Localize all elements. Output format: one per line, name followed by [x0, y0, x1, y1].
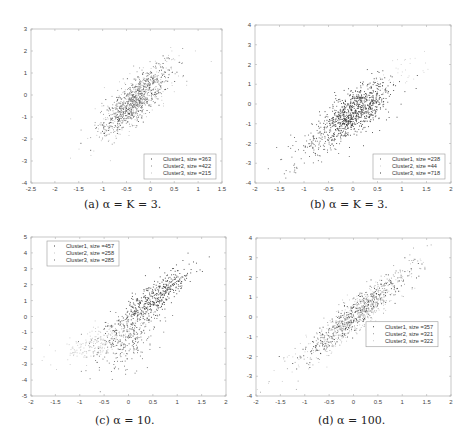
data-point: [394, 287, 395, 288]
data-point: [154, 295, 155, 296]
data-point: [164, 81, 165, 82]
data-point: [373, 119, 374, 120]
data-point: [343, 336, 344, 337]
data-point: [102, 138, 103, 139]
legend-marker: [373, 340, 374, 341]
data-point: [108, 119, 109, 120]
data-point: [344, 318, 345, 319]
data-point: [92, 331, 93, 332]
data-point: [138, 100, 139, 101]
x-tick-label: 1.5: [422, 186, 431, 192]
data-point: [342, 331, 343, 332]
data-point: [117, 320, 118, 321]
data-point: [326, 120, 327, 121]
data-point: [133, 336, 134, 337]
data-point: [329, 142, 330, 143]
data-point: [164, 304, 165, 305]
data-point: [334, 138, 335, 139]
data-point: [153, 81, 154, 82]
data-point: [362, 114, 363, 115]
data-point: [404, 284, 405, 285]
data-point: [373, 301, 374, 302]
data-point: [324, 346, 325, 347]
data-point: [112, 349, 113, 350]
data-point: [130, 304, 131, 305]
data-point: [107, 337, 108, 338]
data-point: [136, 349, 137, 350]
y-tick-label: 4: [249, 235, 253, 241]
data-point: [346, 317, 347, 318]
data-point: [380, 109, 381, 110]
data-point: [149, 303, 150, 304]
data-point: [102, 347, 103, 348]
data-point: [372, 100, 373, 101]
data-point: [116, 358, 117, 359]
data-point: [145, 298, 146, 299]
data-point: [387, 282, 388, 283]
data-point: [175, 73, 176, 74]
data-point: [186, 81, 187, 82]
data-point: [354, 112, 355, 113]
data-point: [354, 318, 355, 319]
data-point: [142, 111, 143, 112]
data-point: [131, 324, 132, 325]
data-point: [383, 101, 384, 102]
data-point: [364, 94, 365, 95]
data-point: [311, 353, 312, 354]
data-point: [136, 310, 137, 311]
data-point: [112, 379, 113, 380]
data-point: [337, 324, 338, 325]
data-point: [155, 315, 156, 316]
data-point: [135, 341, 136, 342]
data-point: [361, 105, 362, 106]
data-point: [150, 90, 151, 91]
data-point: [382, 288, 383, 289]
data-point: [339, 115, 340, 116]
data-point: [135, 119, 136, 120]
data-point: [370, 104, 371, 105]
data-point: [374, 103, 375, 104]
data-point: [147, 299, 148, 300]
data-point: [127, 105, 128, 106]
data-point: [121, 110, 122, 111]
data-point: [98, 346, 99, 347]
data-point: [353, 97, 354, 98]
data-point: [347, 312, 348, 313]
data-point: [385, 304, 386, 305]
data-point: [148, 90, 149, 91]
data-point: [142, 74, 143, 75]
data-point: [119, 123, 120, 124]
data-point: [327, 116, 328, 117]
data-point: [328, 346, 329, 347]
data-point: [353, 126, 354, 127]
data-point: [386, 90, 387, 91]
data-point: [315, 345, 316, 346]
data-point: [148, 313, 149, 314]
data-point: [369, 100, 370, 101]
data-point: [315, 146, 316, 147]
data-point: [168, 278, 169, 279]
legend: Cluster1, size =457Cluster2, size =258Cl…: [47, 241, 119, 266]
data-point: [351, 98, 352, 99]
data-point: [338, 122, 339, 123]
data-point: [175, 279, 176, 280]
data-point: [356, 120, 357, 121]
data-point: [154, 326, 155, 327]
data-point: [334, 125, 335, 126]
data-point: [286, 170, 287, 171]
data-point: [348, 132, 349, 133]
data-point: [283, 357, 284, 358]
data-point: [105, 126, 106, 127]
data-point: [115, 330, 116, 331]
data-point: [129, 135, 130, 136]
data-point: [102, 124, 103, 125]
data-point: [397, 72, 398, 73]
data-point: [344, 326, 345, 327]
data-point: [124, 118, 125, 119]
data-point: [122, 111, 123, 112]
data-point: [391, 293, 392, 294]
data-point: [423, 70, 424, 71]
data-point: [384, 308, 385, 309]
data-point: [313, 137, 314, 138]
data-point: [333, 136, 334, 137]
